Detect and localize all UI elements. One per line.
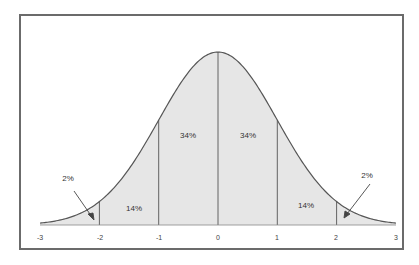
- normal-curve-chart: 2% 14% 34% 34% 14% 2% -3 -2 -1 0 1 2 3: [0, 0, 419, 265]
- label-right-tail: 2%: [361, 171, 373, 180]
- tick-label: 1: [275, 234, 279, 241]
- tick-label: -2: [97, 234, 103, 241]
- label-center-right: 34%: [240, 131, 256, 140]
- tick-label: -1: [156, 234, 162, 241]
- label-left-tail: 2%: [62, 174, 74, 183]
- tick-label: 3: [394, 234, 398, 241]
- label-right-mid: 14%: [298, 201, 314, 210]
- tick-label: 2: [334, 234, 338, 241]
- label-left-mid: 14%: [126, 204, 142, 213]
- tick-label: -3: [37, 234, 43, 241]
- label-center-left: 34%: [180, 131, 196, 140]
- arrow-right: [344, 184, 370, 218]
- tick-label: 0: [216, 234, 220, 241]
